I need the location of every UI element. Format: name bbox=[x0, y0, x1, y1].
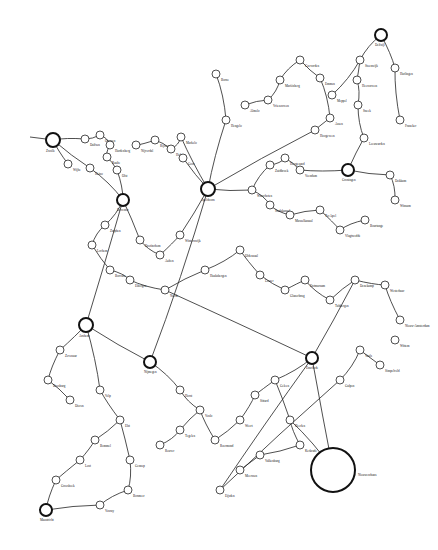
station-circle-icon bbox=[236, 466, 244, 474]
station-node[interactable]: Groesbeek bbox=[52, 476, 75, 488]
station-label: Heerenveen bbox=[362, 84, 378, 88]
nodes-group: DalfsenOmmenHardenbergRaalteOlstWijheHei… bbox=[40, 29, 430, 522]
station-node[interactable]: Goor bbox=[179, 154, 195, 166]
station-node[interactable]: Eijsden bbox=[216, 486, 235, 498]
station-node[interactable]: Markelo bbox=[177, 133, 197, 145]
station-node[interactable]: Elst bbox=[116, 416, 130, 428]
station-node[interactable]: Venlo bbox=[196, 406, 213, 418]
station-node[interactable]: Raalte bbox=[103, 153, 121, 165]
station-node[interactable]: Heerenveen bbox=[353, 76, 378, 88]
hub-node[interactable]: Nieuweschans bbox=[311, 448, 377, 492]
station-node[interactable]: Aalten bbox=[156, 251, 174, 263]
station-node[interactable]: Simpelveld bbox=[376, 361, 400, 373]
station-node[interactable]: Sittard bbox=[251, 391, 269, 403]
station-node[interactable]: Vriezenveen bbox=[264, 96, 289, 108]
station-node[interactable]: Nieuw-Amsterdam bbox=[396, 316, 430, 328]
station-circle-icon bbox=[176, 426, 184, 434]
edge bbox=[86, 200, 123, 325]
station-node[interactable]: Sneek bbox=[354, 101, 371, 113]
station-node[interactable]: Meppel bbox=[328, 91, 347, 103]
station-node[interactable]: Borne bbox=[212, 70, 229, 82]
station-node[interactable]: Nijverdal bbox=[132, 141, 153, 153]
station-node[interactable]: Winschoten bbox=[248, 186, 273, 198]
station-node[interactable]: Hengelo bbox=[222, 116, 242, 128]
hub-node[interactable]: Delfzijl bbox=[375, 29, 387, 47]
station-node[interactable]: Doetinchem bbox=[136, 236, 161, 248]
station-node[interactable]: Franeker bbox=[396, 116, 417, 128]
station-circle-icon bbox=[179, 154, 187, 162]
hub-circle-icon bbox=[375, 29, 387, 41]
station-circle-icon bbox=[286, 416, 294, 424]
station-node[interactable]: Ootmarsum bbox=[301, 276, 326, 288]
station-node[interactable]: Weert bbox=[236, 416, 253, 428]
station-label: Hoogezand bbox=[290, 162, 305, 166]
station-node[interactable]: Boxmeer bbox=[124, 486, 146, 498]
station-circle-icon bbox=[116, 416, 124, 424]
station-node[interactable]: Leeuwarden bbox=[360, 134, 385, 146]
edge bbox=[56, 460, 80, 480]
station-node[interactable]: Bemmel bbox=[91, 436, 111, 448]
station-node[interactable]: Hoogeveen bbox=[311, 126, 335, 138]
station-node[interactable]: Horst bbox=[176, 386, 192, 398]
station-node[interactable]: Winterswijk bbox=[176, 231, 201, 243]
station-node[interactable]: Wittem bbox=[391, 336, 410, 348]
station-node[interactable]: Mariënberg bbox=[276, 76, 300, 88]
station-node[interactable]: Dokkum bbox=[386, 171, 407, 183]
station-label: Emmen bbox=[325, 82, 335, 86]
station-node[interactable]: Olst bbox=[113, 166, 127, 178]
station-node[interactable]: Gennep bbox=[126, 456, 145, 468]
station-node[interactable]: Hardenberg bbox=[106, 141, 130, 153]
hub-node[interactable]: Enschede bbox=[306, 352, 319, 370]
station-node[interactable]: Hoogezand bbox=[281, 154, 305, 166]
station-circle-icon bbox=[251, 391, 259, 399]
edge bbox=[48, 380, 70, 400]
hub-node[interactable]: Arnhem bbox=[79, 318, 93, 338]
hub-node[interactable]: Maastricht bbox=[40, 504, 54, 522]
station-node[interactable]: Kerkrade bbox=[296, 441, 317, 453]
hub-node[interactable]: Zwolle bbox=[46, 133, 60, 153]
station-node[interactable]: Heino bbox=[86, 164, 103, 176]
station-node[interactable]: Venray bbox=[96, 501, 114, 513]
station-node[interactable]: Emmen bbox=[316, 74, 335, 86]
edge bbox=[208, 130, 315, 189]
station-label: Winsum bbox=[400, 204, 411, 208]
station-node[interactable]: Veendam bbox=[296, 166, 317, 178]
station-node[interactable]: Bourtange bbox=[361, 216, 384, 228]
hub-node[interactable]: Deventer bbox=[117, 194, 130, 212]
station-node[interactable]: Assen bbox=[326, 114, 343, 126]
station-circle-icon bbox=[96, 501, 104, 509]
station-node[interactable]: Wijhe bbox=[64, 160, 81, 172]
station-node[interactable]: Coevorden bbox=[296, 56, 319, 68]
station-node[interactable]: Lent bbox=[76, 456, 91, 468]
station-node[interactable]: Harlingen bbox=[391, 64, 413, 76]
station-node[interactable]: Winsum bbox=[391, 196, 411, 208]
station-node[interactable]: Zevenaar bbox=[56, 346, 78, 358]
station-node[interactable]: Tegelen bbox=[176, 426, 195, 438]
hub-node[interactable]: Apeldoorn bbox=[201, 182, 215, 202]
station-node[interactable]: Eibergen bbox=[126, 276, 147, 288]
station-node[interactable]: Vlagtwedde bbox=[336, 226, 361, 238]
hub-circle-icon bbox=[306, 352, 318, 364]
station-node[interactable]: Ter Apel bbox=[316, 206, 336, 218]
station-node[interactable]: Westerhaar bbox=[381, 281, 405, 293]
station-node[interactable]: Doesburg bbox=[44, 376, 66, 388]
station-node[interactable]: Roermond bbox=[211, 436, 234, 448]
station-node[interactable]: Stadskanaal bbox=[266, 201, 290, 213]
station-node[interactable]: Ommen bbox=[96, 131, 116, 143]
hub-node[interactable]: Groningen bbox=[342, 164, 356, 182]
station-node[interactable]: Lochem bbox=[88, 241, 108, 253]
station-label: Geleen bbox=[280, 384, 289, 388]
station-node[interactable]: Haaksbergen bbox=[201, 266, 227, 278]
station-node[interactable]: Glanerbrug bbox=[281, 286, 305, 298]
station-circle-icon bbox=[396, 116, 404, 124]
station-node[interactable]: Gulpen bbox=[336, 376, 355, 388]
station-node[interactable]: Reuver bbox=[156, 441, 175, 453]
hub-node[interactable]: Nijmegen bbox=[144, 356, 157, 374]
station-node[interactable]: Losser bbox=[256, 271, 274, 283]
station-node[interactable]: Oldenzaal bbox=[236, 246, 258, 258]
station-node[interactable]: Meerssen bbox=[236, 466, 258, 478]
station-node[interactable]: Zutphen bbox=[101, 221, 121, 233]
station-node[interactable]: Vaals bbox=[356, 346, 373, 358]
station-node[interactable]: Valkenburg bbox=[256, 451, 280, 463]
station-node[interactable]: Dieren bbox=[66, 396, 84, 408]
